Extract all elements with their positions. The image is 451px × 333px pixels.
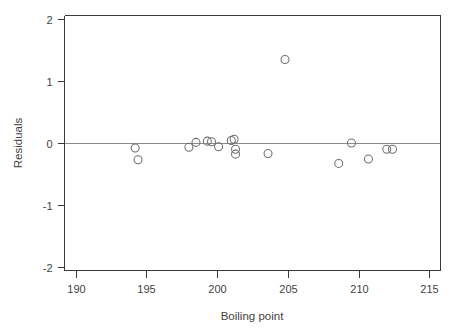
y-axis-title: Residuals: [12, 118, 24, 169]
residuals-vs-boiling-point-scatter-chart: 190195200205210215 210-1-2 Boiling point…: [0, 0, 451, 333]
x-axis-title: Boiling point: [221, 310, 284, 322]
x-tick-label-200: 200: [208, 283, 226, 295]
y-tick-label-0: 0: [46, 138, 52, 150]
x-tick-label-210: 210: [350, 283, 368, 295]
x-tick-label-195: 195: [137, 283, 155, 295]
residual-plot-figure: 190195200205210215 210-1-2 Boiling point…: [0, 0, 451, 333]
y-tick-label--2: -2: [43, 262, 53, 274]
y-tick-label--1: -1: [43, 200, 53, 212]
x-tick-label-205: 205: [279, 283, 297, 295]
x-tick-label-190: 190: [67, 283, 85, 295]
y-tick-label-1: 1: [46, 76, 52, 88]
x-tick-label-215: 215: [420, 283, 438, 295]
y-tick-label-2: 2: [46, 14, 52, 26]
